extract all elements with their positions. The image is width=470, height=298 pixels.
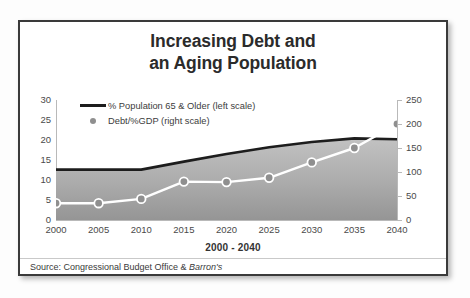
footer-divider — [20, 258, 446, 259]
screenshot-root: Increasing Debt and an Aging Population … — [0, 0, 470, 298]
x-axis-tick-2025: 2025 — [259, 225, 280, 235]
debt-marker-2035 — [350, 144, 359, 153]
y-axis-right-tickmark — [398, 100, 402, 101]
chart-title-line-1: Increasing Debt and — [150, 31, 315, 51]
y-axis-right-tick-150: 150 — [406, 143, 422, 153]
y-axis-left-tick-25: 25 — [40, 115, 51, 125]
plot-area — [56, 100, 397, 220]
y-axis-left-tick-20: 20 — [40, 135, 51, 145]
x-axis-tick-2030: 2030 — [301, 225, 322, 235]
y-axis-right-tickmark — [398, 124, 402, 125]
x-axis-tick-2020: 2020 — [216, 225, 237, 235]
chart-frame: Increasing Debt and an Aging Population … — [18, 20, 448, 276]
chart-title: Increasing Debt and an Aging Population — [20, 30, 446, 75]
y-axis-right-tickmark — [398, 148, 402, 149]
y-axis-left-tick-30: 30 — [40, 95, 51, 105]
debt-marker-2025 — [265, 173, 274, 182]
debt-marker-2040 — [393, 120, 397, 129]
y-axis-right-tick-200: 200 — [406, 119, 422, 129]
x-axis-title: 2000 - 2040 — [20, 242, 446, 253]
y-axis-right-tick-50: 50 — [406, 191, 417, 201]
y-axis-left-tick-5: 5 — [46, 195, 51, 205]
y-axis-right-tick-100: 100 — [406, 167, 422, 177]
debt-marker-2030 — [307, 158, 316, 167]
y-axis-left-tick-10: 10 — [40, 175, 51, 185]
debt-marker-2010 — [137, 195, 146, 204]
debt-marker-2015 — [180, 177, 189, 186]
source-prefix: Source: Congressional Budget Office & — [30, 262, 189, 272]
chart-inner: Increasing Debt and an Aging Population … — [20, 22, 446, 274]
source-note: Source: Congressional Budget Office & Ba… — [30, 262, 222, 272]
debt-marker-2000 — [56, 199, 60, 208]
x-axis-tick-2040: 2040 — [386, 225, 407, 235]
y-axis-right-tick-250: 250 — [406, 95, 422, 105]
source-publication: Barron's — [189, 262, 222, 272]
y-axis-right-line — [397, 100, 398, 220]
x-axis-line — [56, 220, 398, 221]
chart-plot-svg — [56, 100, 397, 220]
debt-marker-2005 — [94, 199, 103, 208]
y-axis-right-tickmark — [398, 172, 402, 173]
y-axis-left-tick-15: 15 — [40, 155, 51, 165]
x-axis-tick-2015: 2015 — [173, 225, 194, 235]
x-axis-tick-2005: 2005 — [88, 225, 109, 235]
y-axis-right-tickmark — [398, 220, 402, 221]
x-axis-tick-2000: 2000 — [45, 225, 66, 235]
debt-marker-2020 — [222, 178, 231, 187]
x-axis-tick-2035: 2035 — [344, 225, 365, 235]
x-axis-tick-2010: 2010 — [131, 225, 152, 235]
chart-title-line-2: an Aging Population — [20, 52, 446, 74]
y-axis-right-tickmark — [398, 196, 402, 197]
